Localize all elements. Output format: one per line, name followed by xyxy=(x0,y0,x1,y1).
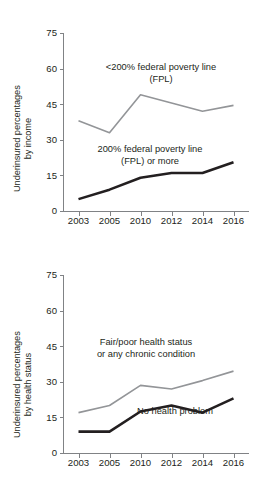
chart-panel-health-status: Underinsured percentages by health statu… xyxy=(0,242,268,484)
y-tick-label: 15 xyxy=(46,170,57,181)
x-tick-label: 2003 xyxy=(68,215,89,226)
series-annotation-line2: (FPL) or more xyxy=(121,156,179,166)
y-tick-label: 60 xyxy=(46,63,57,74)
series-annotation-line1: <200% federal poverty line xyxy=(106,62,216,72)
series-line-upper xyxy=(79,95,234,133)
y-tick-label: 60 xyxy=(46,305,57,316)
x-tick-label: 2014 xyxy=(192,215,214,226)
x-tick-label: 2005 xyxy=(99,215,120,226)
series-annotation-line1: 200% federal poverty line xyxy=(98,144,203,154)
y-tick-label: 15 xyxy=(46,412,57,423)
x-tick-label: 2010 xyxy=(130,457,151,468)
x-tick-label: 2012 xyxy=(161,215,182,226)
series-annotation-lower: 200% federal poverty line(FPL) or more xyxy=(98,144,203,166)
y-tick-label: 45 xyxy=(46,99,57,110)
series-line-lower xyxy=(79,162,234,199)
y-tick-label: 30 xyxy=(46,134,57,145)
plot-area-income: 01530456075200320052010201220142016<200%… xyxy=(0,0,268,242)
axis-lines xyxy=(64,275,250,454)
x-tick-label: 2012 xyxy=(161,457,182,468)
x-tick-label: 2016 xyxy=(223,215,244,226)
series-annotation-line1: No health problem xyxy=(137,406,213,416)
y-tick-label: 30 xyxy=(46,376,57,387)
series-annotation-upper: Fair/poor health statusor any chronic co… xyxy=(97,337,195,359)
series-annotation-line2: (FPL) xyxy=(149,74,172,84)
x-tick-label: 2003 xyxy=(68,457,89,468)
series-annotation-lower: No health problem xyxy=(137,406,213,416)
x-tick-label: 2005 xyxy=(99,457,120,468)
x-tick-label: 2010 xyxy=(130,215,151,226)
y-tick-label: 0 xyxy=(52,447,57,458)
y-tick-label: 0 xyxy=(52,205,57,216)
y-tick-label: 75 xyxy=(46,269,57,280)
plot-area-health-status: 01530456075200320052010201220142016Fair/… xyxy=(0,242,268,484)
x-tick-label: 2014 xyxy=(192,457,214,468)
series-annotation-line1: Fair/poor health status xyxy=(100,337,193,347)
axis-lines xyxy=(64,33,250,212)
y-tick-label: 45 xyxy=(46,341,57,352)
x-tick-label: 2016 xyxy=(223,457,244,468)
chart-panel-income: Underinsured percentages by income 01530… xyxy=(0,0,268,242)
figure-container: Underinsured percentages by income 01530… xyxy=(0,0,268,484)
series-annotation-line2: or any chronic condition xyxy=(97,349,195,359)
y-tick-label: 75 xyxy=(46,27,57,38)
series-annotation-upper: <200% federal poverty line(FPL) xyxy=(106,62,216,84)
